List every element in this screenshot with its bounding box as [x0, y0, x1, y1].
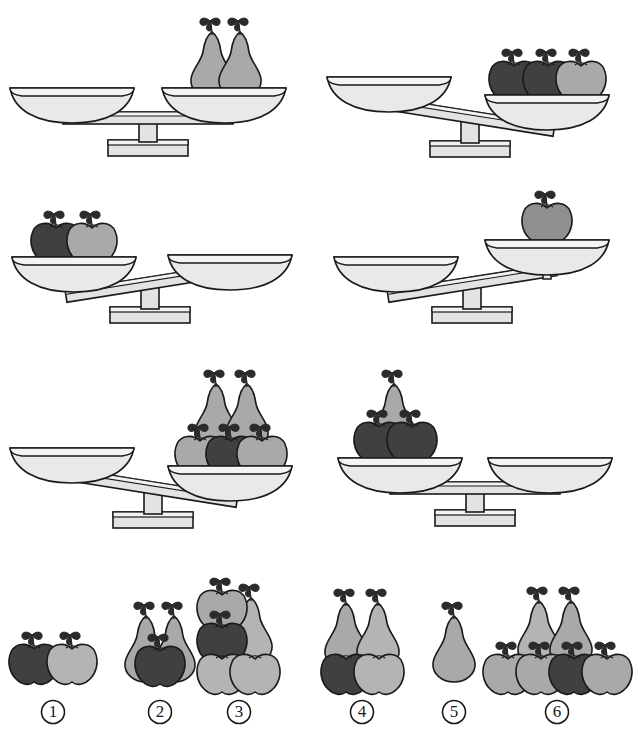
pear-sprig [559, 587, 579, 603]
pear-sprig [382, 370, 402, 386]
pear [433, 602, 475, 682]
pear-sprig [228, 18, 248, 34]
scale-1-right-pan-contents [191, 18, 261, 98]
option-4-number: 4 [358, 702, 367, 721]
balance-puzzle-canvas: 1 2 [0, 0, 643, 751]
option-1-fruit [9, 632, 97, 684]
scale-3-left-pan-contents [31, 211, 117, 263]
option-4-number-badge[interactable]: 4 [351, 701, 374, 724]
option-2-number-badge[interactable]: 2 [149, 701, 172, 724]
pear-sprig [527, 587, 547, 603]
scale-1 [10, 18, 286, 156]
option-2-number: 2 [156, 702, 165, 721]
scale-4 [334, 191, 609, 323]
option-5-number: 5 [450, 702, 459, 721]
apple [67, 211, 117, 263]
scale-5-right-pan-contents [175, 370, 287, 476]
pear-sprig [162, 602, 182, 618]
option-6-number-badge[interactable]: 6 [546, 701, 569, 724]
option-5[interactable]: 5 [433, 602, 475, 723]
apple [522, 191, 572, 243]
scale-4-right-pan-contents [522, 191, 572, 243]
option-1[interactable]: 1 [9, 632, 97, 723]
pear-sprig [366, 589, 386, 605]
pear-sprig [235, 370, 255, 386]
option-1-number: 1 [49, 702, 58, 721]
option-4-fruit [321, 589, 404, 694]
scale-6 [338, 370, 612, 526]
scale-3 [12, 211, 292, 323]
option-5-fruit [433, 602, 475, 682]
option-3-number: 3 [235, 702, 244, 721]
pear-sprig [204, 370, 224, 386]
pear-sprig [200, 18, 220, 34]
option-2-fruit [125, 602, 195, 686]
scale-4-right-pan [485, 240, 609, 275]
option-6[interactable]: 6 [483, 587, 632, 723]
pear-sprig [134, 602, 154, 618]
scale-3-right-pan [168, 255, 292, 290]
scale-2-right-pan-contents [489, 49, 606, 101]
option-3-number-badge[interactable]: 3 [228, 701, 251, 724]
pear [219, 18, 261, 98]
option-2[interactable]: 2 [125, 602, 195, 723]
pear-sprig [334, 589, 354, 605]
option-6-fruit [483, 587, 632, 694]
scale-6-left-pan-contents [354, 370, 437, 462]
pear-sprig [442, 602, 462, 618]
option-3[interactable]: 3 [197, 578, 280, 723]
puzzle-root: 1 2 [0, 0, 643, 751]
scale-5 [10, 370, 292, 528]
apple [354, 654, 404, 694]
apple [47, 632, 97, 684]
apple [556, 49, 606, 101]
scale-2 [327, 49, 609, 157]
option-1-number-badge[interactable]: 1 [42, 701, 65, 724]
option-5-number-badge[interactable]: 5 [443, 701, 466, 724]
apple [230, 654, 280, 694]
option-4[interactable]: 4 [321, 589, 404, 723]
option-6-number: 6 [553, 702, 562, 721]
option-3-fruit [197, 578, 280, 694]
